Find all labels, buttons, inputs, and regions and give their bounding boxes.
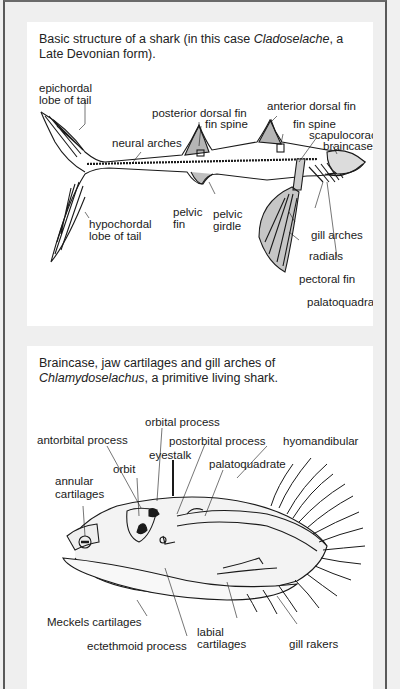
label-hyomandibular: hyomandibular xyxy=(283,435,359,447)
label-orbit: orbit xyxy=(113,463,136,475)
label-palatoquadrate: palatoquadrate xyxy=(209,458,286,470)
label-neural-arches: neural arches xyxy=(112,137,182,149)
figure-panel-chlamydoselachus: Braincase, jaw cartilages and gill arche… xyxy=(27,346,373,689)
shark-skeleton-diagram: epichordal lobe of tail posterior dorsal… xyxy=(27,22,373,326)
figure-frame: Basic structure of a shark (in this case… xyxy=(3,0,387,689)
label-palatoquadrate: palatoquadrate xyxy=(307,296,373,308)
label-meckels-cartilages: Meckels cartilages xyxy=(47,616,142,628)
label-postorbital-process: postorbital process xyxy=(169,435,266,447)
label-pectoral-fin: pectoral fin xyxy=(299,273,355,285)
label-anterior-dorsal-fin: anterior dorsal fin xyxy=(267,100,356,112)
label-labial-cartilages: labial xyxy=(197,626,224,638)
label-hypochordal-line2: lobe of tail xyxy=(89,230,141,242)
label-annular-cartilages: annular xyxy=(55,475,94,487)
label-annular-cartilages-line2: cartilages xyxy=(55,488,104,500)
label-eyestalk: eyestalk xyxy=(149,449,191,461)
label-orbital-process: orbital process xyxy=(145,416,220,428)
label-pelvic-girdle-line2: girdle xyxy=(213,220,241,232)
label-radials: radials xyxy=(309,250,343,262)
label-gill-arches: gill arches xyxy=(311,229,363,241)
label-hypochordal: hypochordal xyxy=(89,218,152,230)
label-ectethmoid-process: ectethmoid process xyxy=(87,640,187,652)
label-fin-spine-posterior: fin spine xyxy=(205,118,248,130)
label-antorbital-process: antorbital process xyxy=(37,434,128,446)
figure-panel-cladoselache: Basic structure of a shark (in this case… xyxy=(27,22,373,326)
label-pelvic-fin: pelvic xyxy=(173,206,203,218)
label-epichordal-line2: lobe of tail xyxy=(39,94,91,106)
label-labial-cartilages-line2: cartilages xyxy=(197,638,246,650)
braincase-jaw-diagram: orbital process antorbital process posto… xyxy=(27,346,373,689)
label-pelvic-girdle: pelvic xyxy=(213,208,243,220)
label-epichordal: epichordal xyxy=(39,82,92,94)
label-braincase: braincase xyxy=(323,140,373,152)
label-pelvic-fin-line2: fin xyxy=(173,218,185,230)
label-gill-rakers: gill rakers xyxy=(289,638,338,650)
